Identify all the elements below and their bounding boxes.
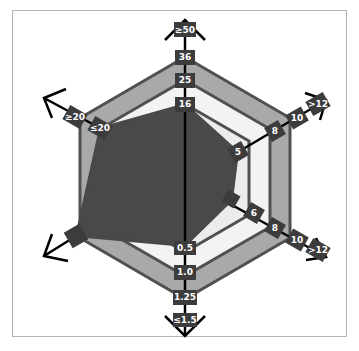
tick-top-2: 25 bbox=[179, 75, 192, 85]
tick-upper-right-3: 10 bbox=[291, 113, 304, 123]
tick-bottom-1: 0.5 bbox=[177, 243, 193, 253]
tick-top-4: ≥50 bbox=[175, 25, 195, 35]
radar-chart: ≥50 36 25 16 0.5 1.0 1.25 ≤1.5 5 8 10 >1… bbox=[0, 0, 359, 351]
tick-upper-left-1: ≤20 bbox=[90, 123, 110, 133]
tick-lower-right-2: 8 bbox=[272, 223, 278, 233]
tick-upper-right-4: >12 bbox=[308, 99, 328, 109]
tick-lower-right-3: 10 bbox=[291, 235, 304, 245]
tick-top-3: 36 bbox=[179, 52, 192, 62]
tick-lower-right-1: 6 bbox=[251, 208, 257, 218]
tick-upper-left-2: ≥20 bbox=[65, 112, 85, 122]
tick-bottom-4: ≤1.5 bbox=[173, 315, 196, 325]
tick-lower-right-4: >12 bbox=[308, 245, 328, 255]
tick-top-1: 16 bbox=[179, 99, 192, 109]
tick-upper-right-2: 8 bbox=[272, 126, 278, 136]
tick-upper-right-1: 5 bbox=[235, 147, 241, 157]
tick-bottom-2: 1.0 bbox=[177, 267, 193, 277]
tick-bottom-3: 1.25 bbox=[174, 292, 196, 302]
